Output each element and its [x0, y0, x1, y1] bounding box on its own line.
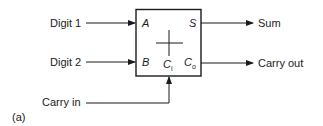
- port-b: B: [142, 56, 149, 68]
- full-adder-diagram: Digit 1 A Digit 2 B Carry in C i S Sum C…: [0, 0, 323, 126]
- output-label-carry-out: Carry out: [258, 57, 303, 69]
- input-label-carry-in: Carry in: [42, 96, 81, 108]
- port-co-subscript: o: [192, 63, 196, 70]
- port-ci: C: [163, 58, 171, 70]
- port-s: S: [189, 17, 197, 29]
- plus-symbol-icon: [156, 30, 183, 56]
- port-a: A: [141, 17, 149, 29]
- input-label-digit-2: Digit 2: [50, 56, 81, 68]
- input-label-digit-1: Digit 1: [50, 17, 81, 29]
- figure-label: (a): [12, 111, 25, 123]
- port-ci-subscript: i: [171, 65, 173, 72]
- output-label-sum: Sum: [258, 17, 281, 29]
- input-arrow-carry-in: [86, 77, 169, 103]
- port-co: C: [184, 56, 192, 68]
